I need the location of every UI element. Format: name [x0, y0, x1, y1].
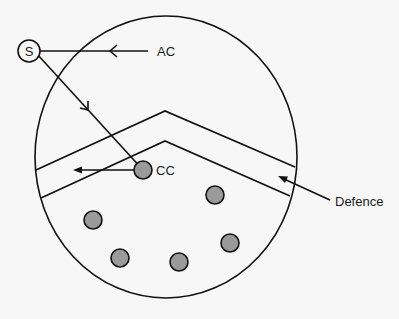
host-node	[84, 211, 102, 229]
diagram-canvas: S CC AC Defence	[0, 0, 399, 319]
defence-pointer-arrowhead-icon	[278, 176, 288, 183]
source-to-cc-line	[37, 54, 143, 170]
cc-label: CC	[156, 163, 175, 178]
host-node	[221, 234, 239, 252]
host-node	[206, 186, 224, 204]
cc-exfil-arrowhead-icon	[73, 167, 82, 174]
cc-node	[134, 161, 152, 179]
host-node	[170, 253, 188, 271]
source-label: S	[25, 44, 34, 59]
internal-hosts	[84, 186, 239, 271]
defence-label: Defence	[335, 194, 383, 209]
ac-label: AC	[157, 44, 175, 59]
host-node	[111, 249, 129, 267]
